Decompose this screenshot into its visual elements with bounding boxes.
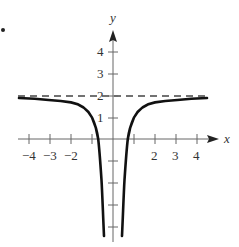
y-axis: [108, 30, 118, 242]
x-tick-label: 3: [172, 148, 179, 163]
y-axis-label: y: [108, 10, 116, 25]
x-tick-label: −3: [43, 148, 57, 163]
x-tick-label: −4: [22, 148, 36, 163]
y-tick-label: 3: [97, 66, 104, 81]
y-tick-label: 4: [97, 44, 104, 59]
y-tick-label: 1: [97, 110, 104, 125]
bullet-dot: [1, 28, 5, 32]
rational-function-graph: −4 −3 −2 2 3 4 4 3 2 1 x y: [0, 0, 239, 247]
x-tick-label: −2: [64, 148, 78, 163]
x-axis-label: x: [223, 131, 230, 146]
right-branch-curve: [122, 98, 207, 236]
x-tick-label: 4: [193, 148, 200, 163]
x-axis: [18, 134, 219, 144]
y-tick-label: 2: [97, 88, 104, 103]
left-branch-curve: [19, 98, 104, 236]
x-tick-label: 2: [151, 148, 158, 163]
